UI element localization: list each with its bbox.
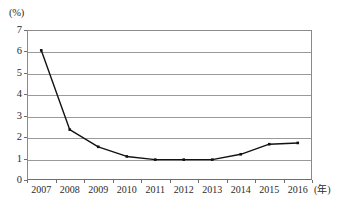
data-point-marker (125, 155, 128, 158)
data-point-marker (182, 158, 185, 161)
data-point-marker (40, 49, 43, 52)
series-line (41, 50, 298, 159)
data-point-marker (154, 158, 157, 161)
figure-caption (24, 201, 312, 212)
data-point-marker (97, 145, 100, 148)
data-point-marker (296, 142, 299, 145)
data-point-marker (211, 158, 214, 161)
series-markers-group (40, 49, 299, 161)
line-chart-figure: (%) 01234567 200720082009201020112012201… (0, 0, 341, 212)
data-point-marker (268, 143, 271, 146)
data-point-marker (68, 128, 71, 131)
data-series-layer (0, 0, 341, 212)
data-point-marker (239, 153, 242, 156)
